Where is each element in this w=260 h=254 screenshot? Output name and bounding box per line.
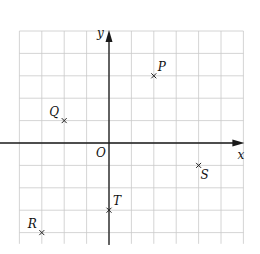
axes: x y O [0, 26, 244, 245]
point-label: S [201, 168, 209, 182]
point-label: T [113, 194, 122, 208]
points: PQRST [27, 60, 209, 235]
point-label: P [157, 60, 167, 74]
coordinate-plane: x y O PQRST [0, 0, 260, 254]
y-axis-label: y [96, 26, 104, 40]
point-label: R [27, 217, 37, 231]
y-axis-arrow-icon [106, 30, 113, 42]
point-s: S [196, 163, 209, 183]
x-axis-arrow-icon [232, 140, 244, 147]
point-label: Q [49, 105, 59, 119]
grid [19, 31, 243, 244]
origin-label: O [96, 146, 106, 160]
x-axis-label: x [237, 148, 244, 162]
